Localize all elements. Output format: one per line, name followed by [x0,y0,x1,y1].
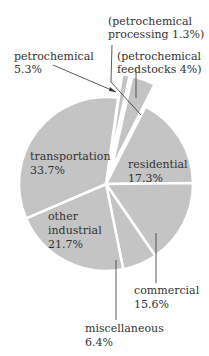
label-petrochemical: petrochemical 5.3% [14,50,97,76]
arrow-head-icon [109,87,116,92]
leader-processing [111,45,112,82]
pie-chart: (petrochemical processing 1.3%) (petroch… [0,0,209,356]
label-feedstocks: (petrochemical feedstocks 4%) [117,50,205,76]
leader-petrochemical [53,65,116,92]
label-processing: (petrochemical processing 1.3%) [108,15,204,41]
label-commercial: commercial 15.6% [134,284,203,311]
label-miscellaneous: miscellaneous 6.4% [85,322,167,349]
